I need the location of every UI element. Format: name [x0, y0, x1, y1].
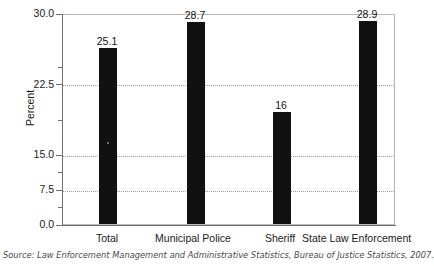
y-tick-11-25: [58, 172, 63, 173]
y-tick-26-25: [58, 67, 63, 68]
x-axis-line: [62, 225, 396, 226]
y-tick-15: [56, 155, 63, 156]
bar-municipal-police: [187, 22, 205, 224]
bar-state-law-enforcement: [359, 21, 377, 224]
y-tick-label-15: 15.0: [2, 149, 54, 160]
category-label-total: Total: [67, 232, 147, 244]
y-tick-7-5: [56, 190, 63, 191]
bar-value-total: 25.1: [77, 35, 137, 47]
y-tick-22-5: [56, 84, 63, 85]
bar-value-state-law-enforcement: 28.9: [337, 8, 397, 20]
y-tick-label-7-5: 7.5: [2, 184, 54, 195]
y-tick-label-30: 30.0: [2, 8, 54, 19]
y-tick-30: [56, 14, 63, 15]
category-label-state-law-enforcement: State Law Enforcement: [302, 232, 426, 244]
bar-total: [99, 48, 117, 225]
source-note: Source: Law Enforcement Management and A…: [3, 250, 434, 261]
y-tick-label-0: 0.0: [2, 219, 54, 230]
y-tick-3-75: [58, 207, 63, 208]
y-axis-title: Percent: [24, 68, 36, 148]
category-label-sheriff: Sheriff: [250, 232, 310, 244]
bar-sheriff: [273, 112, 291, 225]
scan-speck: [107, 142, 109, 144]
y-tick-0: [56, 225, 63, 226]
bar-value-municipal-police: 28.7: [165, 9, 225, 21]
category-label-municipal-police: Municipal Police: [141, 232, 245, 244]
bar-value-sheriff: 16: [251, 99, 311, 111]
y-tick-18-75: [58, 120, 63, 121]
